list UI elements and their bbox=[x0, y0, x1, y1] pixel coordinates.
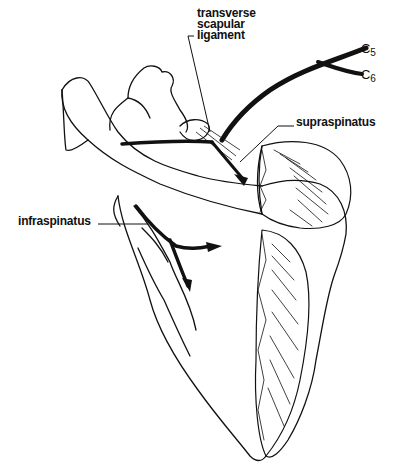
label-c5-num: 5 bbox=[370, 47, 375, 58]
label-c5: C5 bbox=[361, 43, 376, 58]
label-c6: C6 bbox=[361, 69, 376, 84]
acromion-spine-outline bbox=[62, 78, 262, 186]
leader-transverse bbox=[188, 36, 210, 132]
scapula-illustration bbox=[0, 0, 393, 475]
label-c5-letter: C bbox=[361, 41, 370, 56]
label-supraspinatus: supraspinatus bbox=[296, 117, 375, 128]
label-line: ligament bbox=[197, 30, 277, 41]
scapula-body-outline bbox=[118, 196, 266, 461]
coracoid-outline bbox=[110, 66, 188, 132]
label-transverse-scapular-ligament: transverse scapular ligament bbox=[197, 8, 277, 41]
label-c6-letter: C bbox=[361, 67, 370, 82]
label-infraspinatus: infraspinatus bbox=[18, 216, 91, 227]
label-c6-num: 6 bbox=[370, 73, 375, 84]
